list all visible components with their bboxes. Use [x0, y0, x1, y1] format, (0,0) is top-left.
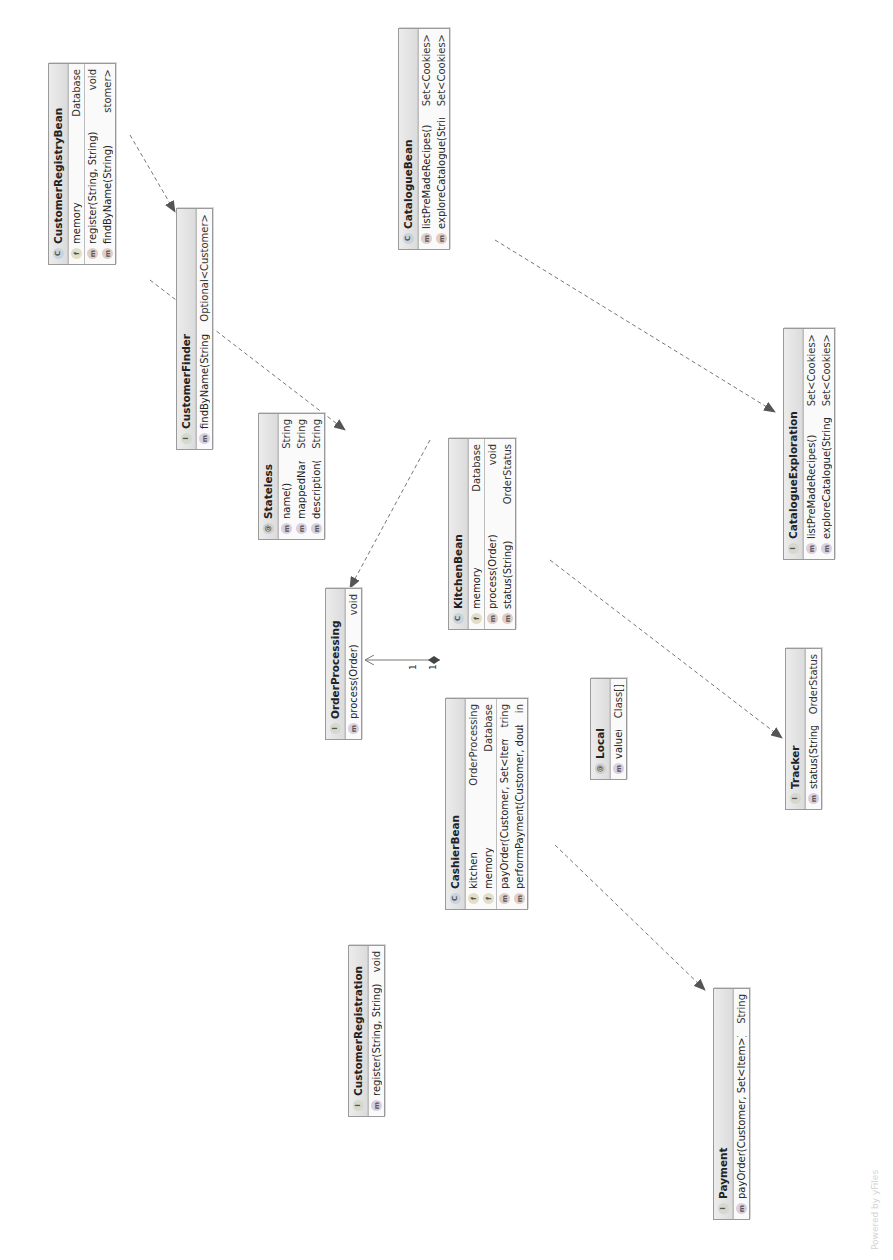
- abstract-method-icon: m: [613, 763, 624, 774]
- method-row: mmappedName()String: [294, 414, 309, 539]
- interface-tracker[interactable]: ITracker mstatus(String)OrderStatus: [785, 648, 822, 810]
- method-row: mname()String: [279, 414, 294, 539]
- method-icon: m: [87, 248, 98, 259]
- class-name: CustomerFinder: [180, 334, 192, 429]
- annotation-icon: @: [595, 763, 606, 774]
- edge-registry-to-finder: [130, 135, 175, 212]
- multiplicity-source: 1: [428, 664, 438, 670]
- annotation-icon: @: [263, 523, 274, 534]
- method-icon: m: [487, 613, 498, 624]
- field-row: fmemoryDatabase: [469, 439, 484, 629]
- field-row: fmemoryDatabase: [481, 699, 496, 909]
- class-cashier-bean[interactable]: CCashierBean fkitchenOrderProcessing fme…: [445, 698, 528, 910]
- field-row: fkitchenOrderProcessing: [466, 699, 481, 909]
- interface-icon: I: [181, 433, 192, 444]
- method-icon: m: [502, 613, 513, 624]
- method-icon: m: [499, 893, 510, 904]
- interface-catalogue-exploration[interactable]: ICatalogueExploration mlistPreMadeRecipe…: [783, 328, 835, 560]
- multiplicity-target: 1: [408, 664, 418, 670]
- class-name: CatalogueExploration: [787, 411, 799, 539]
- method-row: mprocess(Order)void: [346, 589, 361, 739]
- edge-kitchen-to-tracker: [550, 560, 782, 738]
- method-row: mpayOrder(Customer, Set<Item>)String: [734, 989, 749, 1219]
- interface-icon: I: [718, 1203, 729, 1214]
- method-row: mpayOrder(Customer, Set<Item>)tring: [497, 699, 512, 909]
- method-icon: m: [436, 233, 447, 244]
- method-icon: m: [514, 893, 525, 904]
- method-row: mregister(String, String)void: [369, 946, 384, 1116]
- method-row: mlistPreMadeRecipes()Set<Cookies>: [419, 29, 434, 249]
- method-row: mlistPreMadeRecipes()Set<Cookies>: [804, 329, 819, 559]
- class-name: CashierBean: [449, 815, 461, 889]
- method-row: mfindByName(String)Optional<Customer>: [197, 209, 212, 449]
- class-name: KitchenBean: [452, 534, 464, 609]
- class-icon: C: [403, 233, 414, 244]
- class-name: CustomerRegistryBean: [52, 108, 64, 244]
- abstract-method-icon: m: [371, 1100, 382, 1111]
- abstract-method-icon: m: [806, 543, 817, 554]
- field-icon: f: [483, 893, 494, 904]
- method-row: mexploreCatalogue(String)Set<Cookies>: [434, 29, 449, 249]
- abstract-method-icon: m: [808, 793, 819, 804]
- abstract-method-icon: m: [296, 523, 307, 534]
- uml-diagram-canvas: 1 1 CCustomerRegistryBean fmemoryDatabas…: [0, 0, 893, 1260]
- class-customer-registry-bean[interactable]: CCustomerRegistryBean fmemoryDatabase mr…: [48, 63, 116, 265]
- abstract-method-icon: m: [281, 523, 292, 534]
- method-row: mstatus(String)OrderStatus: [806, 649, 821, 809]
- method-row: mprocess(Order)void: [485, 439, 500, 629]
- class-catalogue-bean[interactable]: CCatalogueBean mlistPreMadeRecipes()Set<…: [398, 28, 450, 250]
- interface-icon: I: [330, 723, 341, 734]
- field-row: fmemoryDatabase: [69, 64, 84, 264]
- method-row: mfindByName(String)stomer>: [100, 64, 115, 264]
- method-row: mvalue()Class[]: [611, 679, 626, 779]
- method-icon: m: [421, 233, 432, 244]
- class-icon: C: [453, 613, 464, 624]
- edge-catalogue-to-exploration: [495, 240, 775, 412]
- method-row: mstatus(String)OrderStatus: [500, 439, 515, 629]
- abstract-method-icon: m: [821, 543, 832, 554]
- method-icon: m: [102, 248, 113, 259]
- interface-icon: I: [788, 543, 799, 554]
- abstract-method-icon: m: [199, 433, 210, 444]
- interface-icon: I: [790, 793, 801, 804]
- class-name: CustomerRegistration: [352, 966, 364, 1096]
- interface-customer-finder[interactable]: ICustomerFinder mfindByName(String)Optio…: [176, 208, 213, 450]
- class-name: OrderProcessing: [329, 621, 341, 719]
- abstract-method-icon: m: [736, 1203, 747, 1214]
- field-icon: f: [468, 893, 479, 904]
- annotation-stateless[interactable]: @Stateless mname()String mmappedName()St…: [258, 413, 325, 540]
- edge-kitchen-to-orderprocessing: [350, 440, 430, 588]
- interface-icon: I: [353, 1100, 364, 1111]
- class-name: Stateless: [262, 464, 274, 519]
- class-name: Local: [594, 728, 606, 759]
- annotation-local[interactable]: @Local mvalue()Class[]: [590, 678, 627, 780]
- method-row: mdescription()String: [309, 414, 324, 539]
- interface-order-processing[interactable]: IOrderProcessing mprocess(Order)void: [325, 588, 362, 740]
- class-name: CatalogueBean: [402, 139, 414, 229]
- field-icon: f: [71, 248, 82, 259]
- class-kitchen-bean[interactable]: CKitchenBean fmemoryDatabase mprocess(Or…: [448, 438, 516, 630]
- interface-customer-registration[interactable]: ICustomerRegistration mregister(String, …: [348, 945, 385, 1117]
- interface-payment[interactable]: IPayment mpayOrder(Customer, Set<Item>)S…: [713, 988, 750, 1220]
- class-icon: C: [450, 893, 461, 904]
- watermark: Powered by yFiles: [870, 1170, 880, 1250]
- class-name: Tracker: [789, 746, 801, 790]
- abstract-method-icon: m: [311, 523, 322, 534]
- field-icon: f: [471, 613, 482, 624]
- method-row: mexploreCatalogue(String)Set<Cookies>: [819, 329, 834, 559]
- edge-cashier-to-payment: [555, 845, 705, 990]
- method-row: mperformPayment(Customer, double)in: [512, 699, 527, 909]
- class-icon: C: [53, 248, 64, 259]
- class-name: Payment: [717, 1147, 729, 1199]
- abstract-method-icon: m: [348, 723, 359, 734]
- method-row: mregister(String, String)void: [85, 64, 100, 264]
